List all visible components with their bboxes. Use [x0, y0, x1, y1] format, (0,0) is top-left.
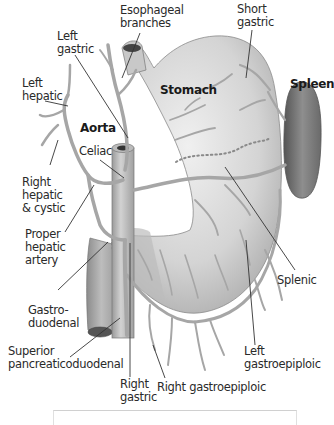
label-line: Splenic: [277, 274, 317, 287]
label-celiac: Celiac: [79, 145, 112, 158]
label-line: gastric: [57, 43, 94, 56]
label-line: pancreaticoduodenal: [8, 358, 123, 371]
label-line: gastroepiploic: [244, 358, 321, 371]
label-spleen: Spleen: [290, 78, 334, 91]
label-short-gastric: Short gastric: [237, 3, 274, 29]
label-superior-pancreaticoduodenal: Superior pancreaticoduodenal: [8, 345, 123, 371]
spleen: [284, 82, 321, 198]
label-esophageal-branches: Esophageal branches: [120, 4, 184, 30]
label-line: branches: [120, 17, 184, 30]
label-left-gastric: Left gastric: [57, 30, 94, 56]
label-line: gastric: [237, 16, 274, 29]
label-left-gastroepiploic: Left gastroepiploic: [244, 345, 321, 371]
duodenum: [87, 238, 116, 337]
label-right-gastric: Right gastric: [120, 378, 157, 404]
caption-box: [53, 410, 297, 425]
label-line: & cystic: [22, 202, 65, 215]
label-line: artery: [25, 254, 66, 267]
label-line: gastric: [120, 391, 157, 404]
label-proper-hepatic-artery: Proper hepatic artery: [25, 228, 66, 267]
label-gastroduodenal: Gastro- duodenal: [28, 304, 79, 330]
label-splenic: Splenic: [277, 274, 317, 287]
label-line: duodenal: [28, 317, 79, 330]
label-right-hepatic-cystic: Right hepatic & cystic: [22, 176, 65, 215]
label-aorta: Aorta: [80, 122, 116, 135]
label-stomach: Stomach: [160, 84, 217, 97]
label-line: hepatic: [22, 90, 63, 103]
label-line: Right gastroepiploic: [157, 381, 266, 394]
label-right-gastroepiploic: Right gastroepiploic: [157, 381, 266, 394]
label-line: Celiac: [79, 145, 112, 158]
label-left-hepatic: Left hepatic: [22, 77, 63, 103]
